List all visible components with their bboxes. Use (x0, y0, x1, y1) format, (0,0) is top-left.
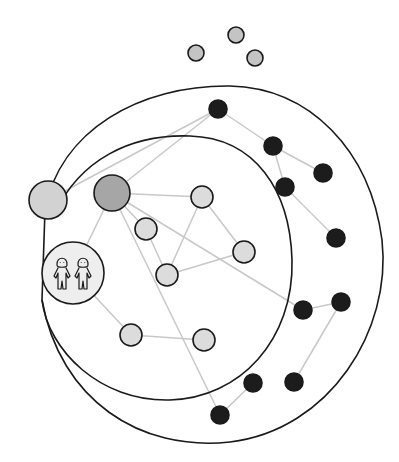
black-node-b2[interactable] (264, 137, 282, 155)
black-node-b1[interactable] (209, 100, 227, 118)
edge-b4-b5 (285, 187, 336, 238)
outside-node-o1[interactable] (188, 45, 204, 61)
inner-node-i2[interactable] (135, 218, 157, 240)
black-node-b6[interactable] (294, 301, 312, 319)
black-node-b8[interactable] (285, 373, 303, 391)
black-node-b3[interactable] (314, 164, 332, 182)
network-diagram (0, 0, 399, 462)
black-node-b10[interactable] (211, 406, 229, 424)
large-left-node[interactable] (29, 181, 67, 219)
inner-node-i4[interactable] (156, 264, 178, 286)
hub-node[interactable] (94, 175, 130, 211)
edge-b1-b2 (218, 109, 273, 146)
outside-node-o2[interactable] (228, 27, 244, 43)
black-node-b7[interactable] (332, 293, 350, 311)
black-node-b4[interactable] (276, 178, 294, 196)
black-node-b9[interactable] (244, 374, 262, 392)
inner-node-i6[interactable] (193, 329, 215, 351)
edge-i1-i4 (167, 197, 202, 275)
edge-hub-b1 (112, 109, 218, 193)
inner-node-i3[interactable] (233, 241, 255, 263)
inner-node-i1[interactable] (191, 186, 213, 208)
black-node-b5[interactable] (327, 229, 345, 247)
edge-i4-i3 (167, 252, 244, 275)
outside-node-o3[interactable] (247, 50, 263, 66)
twins-node[interactable] (42, 242, 104, 304)
inner-node-i5[interactable] (120, 324, 142, 346)
edge-large-left-b1 (48, 109, 218, 200)
